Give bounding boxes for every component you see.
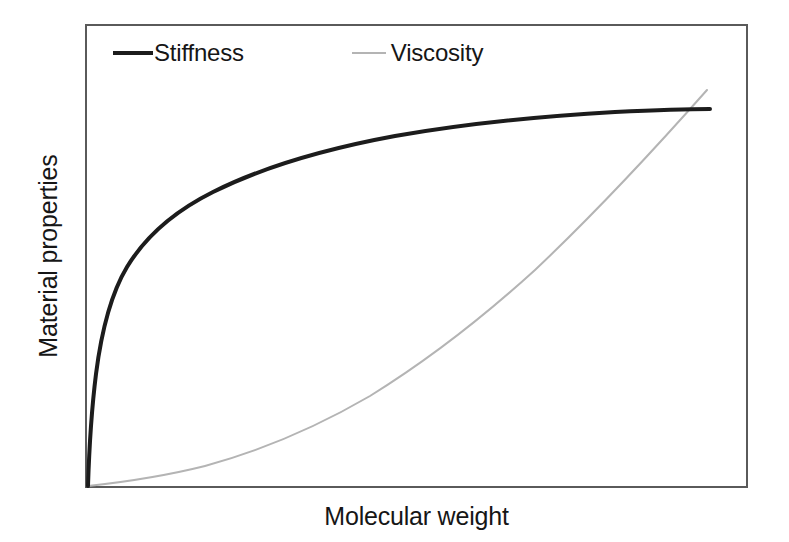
- chart-legend: Stiffness Viscosity: [113, 41, 483, 65]
- chart-figure: Stiffness Viscosity Material properties …: [0, 0, 789, 542]
- series-line-viscosity: [88, 90, 707, 486]
- x-axis-title: Molecular weight: [85, 502, 748, 531]
- legend-label-stiffness: Stiffness: [154, 41, 244, 65]
- legend-entry-stiffness: Stiffness: [113, 41, 244, 65]
- legend-label-viscosity: Viscosity: [391, 41, 483, 65]
- legend-line-icon-stiffness: [113, 51, 153, 55]
- legend-line-icon-viscosity: [352, 52, 386, 54]
- chart-curves: [85, 24, 748, 488]
- series-line-stiffness: [88, 109, 710, 486]
- y-axis-title: Material properties: [28, 24, 68, 488]
- legend-entry-viscosity: Viscosity: [352, 41, 483, 65]
